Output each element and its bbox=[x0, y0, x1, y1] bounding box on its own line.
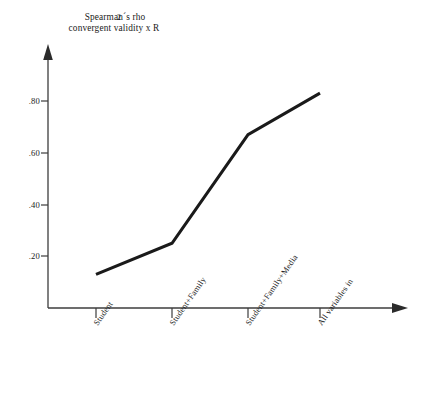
y-tick-label: .20 bbox=[14, 251, 40, 261]
x-axis-arrow-icon bbox=[392, 303, 408, 313]
chart-plot-area bbox=[0, 0, 440, 403]
y-axis-arrow-icon bbox=[43, 44, 53, 60]
chart-figure: Spearman´s rho convergent validity x R 2… bbox=[0, 0, 440, 403]
y-tick-label: .60 bbox=[14, 148, 40, 158]
y-tick-label: .40 bbox=[14, 200, 40, 210]
y-tick-label: .80 bbox=[14, 96, 40, 106]
data-series-line bbox=[96, 93, 320, 274]
